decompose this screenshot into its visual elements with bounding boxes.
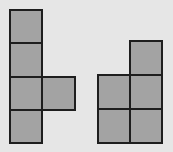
unit-square xyxy=(41,76,76,111)
unit-square xyxy=(9,9,43,44)
unit-square xyxy=(129,40,163,76)
unit-square xyxy=(9,109,43,144)
unit-square xyxy=(129,74,163,110)
unit-square xyxy=(97,74,131,110)
unit-square xyxy=(9,76,43,111)
unit-square xyxy=(129,108,163,144)
unit-square xyxy=(9,42,43,78)
unit-square xyxy=(97,108,131,144)
